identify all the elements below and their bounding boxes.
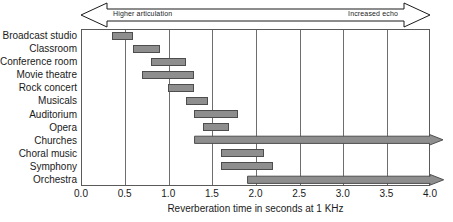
bar bbox=[221, 149, 265, 157]
category-label-broadcast-studio: Broadcast studio bbox=[0, 29, 77, 42]
x-tick-1.5: 1.5 bbox=[192, 188, 232, 199]
category-label-symphony: Symphony bbox=[0, 160, 77, 173]
category-label-orchestra: Orchestra bbox=[0, 173, 77, 186]
bar-track bbox=[81, 42, 430, 55]
chart-row: Rock concert bbox=[0, 81, 453, 94]
category-label-movie-theatre: Movie theatre bbox=[0, 68, 77, 81]
bar bbox=[194, 110, 238, 118]
bar bbox=[168, 84, 194, 92]
bar-open-ended bbox=[247, 174, 444, 186]
bar-track bbox=[81, 108, 430, 121]
chart-row: Opera bbox=[0, 121, 453, 134]
category-label-choral-music: Choral music bbox=[0, 147, 77, 160]
bar-track bbox=[81, 160, 430, 173]
category-label-opera: Opera bbox=[0, 121, 77, 134]
bar-track bbox=[81, 68, 430, 81]
chart-row: Symphony bbox=[0, 160, 453, 173]
chart-row: Auditorium bbox=[0, 108, 453, 121]
chart-row: Choral music bbox=[0, 147, 453, 160]
category-label-classroom: Classroom bbox=[0, 42, 77, 55]
direction-banner: Higher articulation Increased echo bbox=[81, 2, 430, 28]
x-tick-0.0: 0.0 bbox=[61, 188, 101, 199]
bar-track bbox=[81, 94, 430, 107]
category-label-musicals: Musicals bbox=[0, 94, 77, 107]
reverberation-time-chart: Higher articulation Increased echo Broad… bbox=[0, 0, 453, 222]
category-label-rock-concert: Rock concert bbox=[0, 81, 77, 94]
category-label-churches: Churches bbox=[0, 134, 77, 147]
x-tick-4.0: 4.0 bbox=[410, 188, 450, 199]
chart-row: Classroom bbox=[0, 42, 453, 55]
bar bbox=[151, 58, 186, 66]
bar-track bbox=[81, 134, 430, 147]
bar-track bbox=[81, 147, 430, 160]
chart-row: Broadcast studio bbox=[0, 29, 453, 42]
bar bbox=[142, 71, 194, 79]
higher-articulation-label: Higher articulation bbox=[113, 10, 172, 17]
category-label-auditorium: Auditorium bbox=[0, 108, 77, 121]
x-tick-2.5: 2.5 bbox=[279, 188, 319, 199]
bar-track bbox=[81, 55, 430, 68]
x-axis-ticks: 0.00.51.01.52.02.53.03.54.0 bbox=[0, 188, 453, 202]
bar bbox=[203, 123, 229, 131]
chart-row: Musicals bbox=[0, 94, 453, 107]
x-tick-1.0: 1.0 bbox=[148, 188, 188, 199]
bar-track bbox=[81, 173, 430, 186]
chart-row: Movie theatre bbox=[0, 68, 453, 81]
x-tick-3.0: 3.0 bbox=[323, 188, 363, 199]
bar-open-ended bbox=[194, 134, 444, 146]
chart-rows: Broadcast studioClassroomConference room… bbox=[0, 29, 453, 186]
x-tick-2.0: 2.0 bbox=[236, 188, 276, 199]
bar bbox=[133, 45, 159, 53]
bar bbox=[221, 162, 273, 170]
bar bbox=[186, 97, 208, 105]
bar-track bbox=[81, 121, 430, 134]
bar bbox=[112, 32, 134, 40]
category-label-conference-room: Conference room bbox=[0, 55, 77, 68]
chart-row: Churches bbox=[0, 134, 453, 147]
chart-row: Orchestra bbox=[0, 173, 453, 186]
x-tick-3.5: 3.5 bbox=[366, 188, 406, 199]
bar-track bbox=[81, 81, 430, 94]
x-tick-0.5: 0.5 bbox=[105, 188, 145, 199]
x-axis-label: Reverberation time in seconds at 1 KHz bbox=[81, 203, 430, 214]
bar-track bbox=[81, 29, 430, 42]
chart-row: Conference room bbox=[0, 55, 453, 68]
increased-echo-label: Increased echo bbox=[348, 10, 398, 17]
